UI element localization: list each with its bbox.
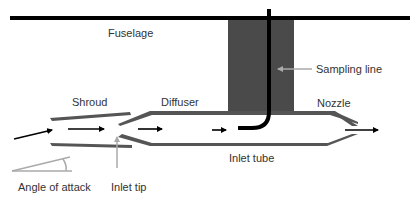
inlet-tube-label: Inlet tube	[229, 152, 274, 165]
inlet-tube-upper-wall	[118, 111, 358, 126]
inlet-diagram: Fuselage Sampling line Shroud Diffuser N…	[0, 0, 419, 204]
nozzle-label: Nozzle	[317, 97, 351, 110]
nozzle-upper-wall	[330, 111, 358, 126]
inlet-tip-label: Inlet tip	[111, 181, 146, 194]
shroud-label: Shroud	[72, 96, 107, 109]
sampling-line-label: Sampling line	[316, 63, 382, 76]
strut	[228, 19, 294, 111]
inlet-tube-lower-wall	[118, 134, 358, 146]
angle-of-attack-symbol	[12, 157, 72, 171]
shroud-walls	[50, 112, 132, 148]
diffuser-label: Diffuser	[161, 96, 199, 109]
flow-arrows	[14, 129, 378, 139]
fuselage-line	[10, 16, 410, 20]
angle-of-attack-label: Angle of attack	[18, 181, 91, 194]
fuselage-label: Fuselage	[108, 27, 153, 40]
